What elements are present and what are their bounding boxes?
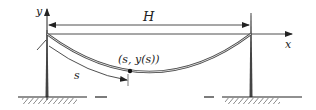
right-tower bbox=[250, 13, 253, 97]
ground-left bbox=[18, 97, 107, 104]
arc-length-arrow bbox=[37, 40, 128, 86]
point-label: (s, y(s)) bbox=[118, 53, 160, 66]
point-marker bbox=[128, 69, 132, 73]
ground-right bbox=[204, 97, 302, 104]
x-axis-label: x bbox=[285, 38, 292, 51]
catenary-diagram: y x H (s, y(s)) s bbox=[0, 0, 316, 110]
arc-length-label: s bbox=[74, 69, 80, 82]
y-axis-label: y bbox=[35, 5, 43, 18]
span-label: H bbox=[142, 9, 155, 24]
